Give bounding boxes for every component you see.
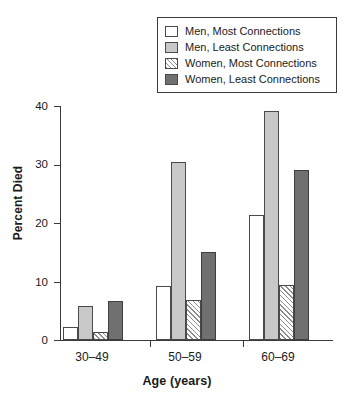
bar-men-least-connections-30-49 xyxy=(78,306,93,340)
y-axis-title: Percent Died xyxy=(11,143,25,263)
bar-women-most-connections-60-69 xyxy=(279,285,294,340)
plot-area xyxy=(60,106,333,341)
bar-men-least-connections-50-59 xyxy=(171,162,186,340)
x-tick-label-50-59: 50–59 xyxy=(145,350,225,364)
bar-men-most-connections-50-59 xyxy=(156,286,171,340)
legend-label: Women, Most Connections xyxy=(185,57,317,70)
x-tick-label-60-69: 60–69 xyxy=(238,350,318,364)
bar-women-least-connections-30-49 xyxy=(108,301,123,340)
x-axis-tick-divider-2 xyxy=(243,341,244,347)
bar-chart-figure: Men, Most Connections Men, Least Connect… xyxy=(0,0,354,399)
legend-swatch-white-icon xyxy=(165,26,178,37)
y-tick-label-10: 10 xyxy=(8,277,48,289)
legend-label: Men, Least Connections xyxy=(185,41,304,54)
bar-men-least-connections-60-69 xyxy=(264,111,279,340)
chart-legend: Men, Most Connections Men, Least Connect… xyxy=(157,17,337,93)
legend-swatch-light-gray-icon xyxy=(165,42,178,53)
bar-men-most-connections-60-69 xyxy=(249,215,264,340)
bar-women-least-connections-60-69 xyxy=(294,170,309,340)
x-tick-label-30-49: 30–49 xyxy=(52,350,132,364)
legend-swatch-dark-gray-icon xyxy=(165,74,178,85)
legend-item-men-least-connections: Men, Least Connections xyxy=(165,39,329,55)
legend-label: Men, Most Connections xyxy=(185,25,301,38)
legend-label: Women, Least Connections xyxy=(185,73,320,86)
legend-swatch-hatched-icon xyxy=(165,58,178,69)
y-tick-label-0: 0 xyxy=(8,335,48,347)
legend-item-women-least-connections: Women, Least Connections xyxy=(165,71,329,87)
bar-men-most-connections-30-49 xyxy=(63,327,78,340)
y-tick-label-40: 40 xyxy=(8,101,48,113)
bar-women-most-connections-30-49 xyxy=(93,332,108,340)
bar-women-least-connections-50-59 xyxy=(201,252,216,340)
legend-item-women-most-connections: Women, Most Connections xyxy=(165,55,329,71)
x-axis-title: Age (years) xyxy=(0,374,354,388)
bar-women-most-connections-50-59 xyxy=(186,300,201,340)
legend-item-men-most-connections: Men, Most Connections xyxy=(165,23,329,39)
x-axis-tick-divider-1 xyxy=(150,341,151,347)
